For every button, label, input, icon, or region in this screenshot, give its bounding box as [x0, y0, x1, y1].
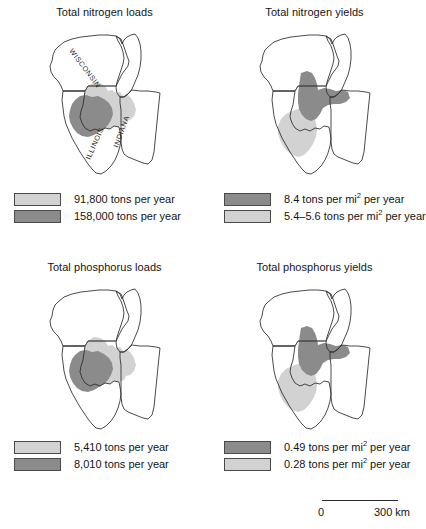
legend-label: 5.4–5.6 tons per mi2 per year — [284, 210, 426, 223]
legend-swatch-light — [14, 193, 61, 206]
panel-nitrogen-yields: Total nitrogen yields — [210, 0, 419, 264]
legend-label: 0.49 tons per mi2 per year — [284, 441, 410, 454]
panel-nitrogen-loads: Total nitrogen loads — [0, 0, 209, 264]
panel-title: Total phosphorus yields — [210, 261, 419, 274]
legend-swatch-light — [224, 210, 271, 223]
legend-label: 91,800 tons per year — [74, 193, 175, 206]
legend-item: 5,410 tons per year — [14, 440, 209, 455]
legend-nitrogen-loads: 91,800 tons per year 158,000 tons per ye… — [14, 192, 209, 226]
legend-label: 158,000 tons per year — [74, 210, 181, 223]
map-nitrogen-loads: WISCONSIN ILLINOIS INDIANA — [28, 20, 183, 190]
legend-label: 5,410 tons per year — [74, 441, 169, 454]
map-nitrogen-yields — [238, 20, 393, 190]
state-label-wisconsin: WISCONSIN — [67, 47, 102, 90]
map-phosphorus-yields — [238, 275, 393, 445]
legend-swatch-dark — [224, 441, 271, 454]
legend-label: 8.4 tons per mi2 per year — [284, 193, 404, 206]
map-phosphorus-loads — [28, 275, 183, 445]
legend-item: 0.28 tons per mi2 per year — [224, 457, 419, 472]
legend-nitrogen-yields: 8.4 tons per mi2 per year 5.4–5.6 tons p… — [224, 192, 419, 226]
panel-phosphorus-loads: Total phosphorus loads — [0, 255, 209, 519]
scale-bar-line — [322, 500, 398, 501]
legend-swatch-dark — [14, 458, 61, 471]
legend-item: 0.49 tons per mi2 per year — [224, 440, 419, 455]
legend-swatch-light — [224, 458, 271, 471]
scale-bar-zero-label: 0 — [318, 505, 324, 519]
panel-phosphorus-yields: Total phosphorus yields — [210, 255, 419, 519]
legend-item: 5.4–5.6 tons per mi2 per year — [224, 209, 419, 224]
scale-bar: 0 300 km — [310, 497, 410, 525]
legend-item: 158,000 tons per year — [14, 209, 209, 224]
shaded-region-dark — [298, 71, 350, 121]
legend-item: 8,010 tons per year — [14, 457, 209, 472]
legend-label: 0.28 tons per mi2 per year — [284, 458, 410, 471]
scale-bar-max-label: 300 km — [374, 505, 410, 519]
legend-item: 8.4 tons per mi2 per year — [224, 192, 419, 207]
legend-item: 91,800 tons per year — [14, 192, 209, 207]
shaded-region-dark — [298, 326, 350, 376]
panel-title: Total nitrogen yields — [210, 6, 419, 19]
legend-swatch-dark — [14, 210, 61, 223]
legend-swatch-dark — [224, 193, 271, 206]
panel-title: Total nitrogen loads — [0, 6, 209, 19]
legend-swatch-light — [14, 441, 61, 454]
legend-label: 8,010 tons per year — [74, 458, 169, 471]
legend-phosphorus-yields: 0.49 tons per mi2 per year 0.28 tons per… — [224, 440, 419, 474]
panel-title: Total phosphorus loads — [0, 261, 209, 274]
legend-phosphorus-loads: 5,410 tons per year 8,010 tons per year — [14, 440, 209, 474]
